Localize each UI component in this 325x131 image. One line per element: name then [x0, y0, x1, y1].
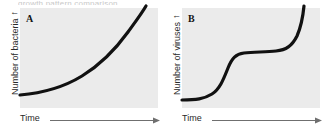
curve-exponential-bacteria [20, 8, 158, 108]
x-axis-arrow-a [50, 116, 160, 125]
right-arrow-icon [212, 116, 322, 125]
x-axis-a: Time [20, 112, 160, 128]
y-axis-label-text-b: Number of viruses [172, 22, 182, 95]
panel-a: A Number of bacteria↑ Time [0, 8, 163, 108]
x-axis-arrow-b [212, 116, 322, 125]
caption-bleed-text: growth pattern comparison [18, 0, 248, 5]
curve-stepwise-viruses [182, 8, 320, 108]
panel-b: B Number of viruses↑ Time [162, 8, 325, 108]
up-arrow-icon: ↑ [169, 14, 183, 19]
right-arrow-icon [50, 116, 160, 125]
y-axis-label-text-a: Number of bacteria [10, 18, 20, 95]
x-axis-label-a: Time [20, 113, 40, 123]
up-arrow-icon: ↑ [7, 11, 21, 16]
x-axis-label-b: Time [182, 113, 202, 123]
figure-container: growth pattern comparison A Number of ba… [0, 0, 325, 131]
x-axis-b: Time [182, 112, 322, 128]
